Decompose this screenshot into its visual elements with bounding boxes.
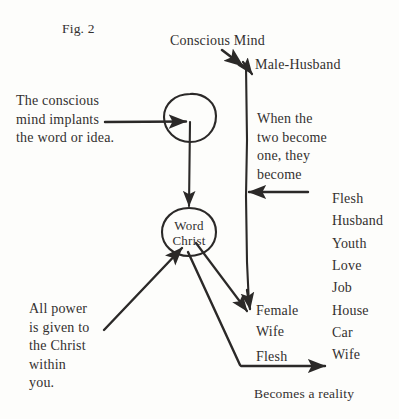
female-wife-arrow [247, 290, 250, 309]
label-becomes-reality: Becomes a reality [254, 385, 354, 403]
outcome-word: Husband [332, 212, 383, 230]
implant-arrow [105, 122, 186, 123]
label-female: Female [256, 301, 298, 320]
outcome-word: House [332, 302, 369, 320]
union-spine-line [246, 66, 249, 305]
outcome-word: Wife [332, 346, 360, 364]
conscious-mind-note: The conscious mind implants the word or … [16, 92, 114, 148]
word-circle-line1: Word [165, 218, 213, 233]
union-note: When the two become one, they become [257, 110, 327, 184]
all-power-note: All power is given to the Christ within … [29, 300, 90, 393]
label-wife: Wife [256, 322, 284, 341]
word-circle-line2: Christ [163, 233, 215, 248]
conscious-mind-pointer-arrow [222, 50, 243, 66]
figure-title: Fig. 2 [62, 20, 95, 38]
outcome-word: Car [332, 324, 353, 342]
outcome-word: Youth [332, 235, 367, 253]
figure-canvas: Fig. 2 The conscious mind implants the w… [0, 0, 399, 419]
all-power-arrow [104, 248, 182, 330]
outcome-word: Job [332, 279, 352, 297]
outcome-word: Flesh [332, 190, 363, 208]
outcome-word: Love [332, 257, 362, 275]
label-male-husband: Male-Husband [255, 55, 341, 74]
label-conscious-mind: Conscious Mind [170, 31, 265, 50]
circle-to-word-line [189, 122, 190, 206]
male-husband-arrow [243, 62, 252, 74]
word-to-female-arrow [196, 243, 247, 311]
label-flesh-lower: Flesh [256, 347, 287, 366]
